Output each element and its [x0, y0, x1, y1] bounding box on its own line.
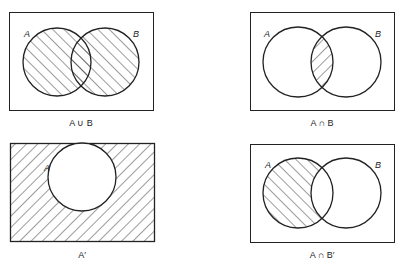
- venn-intersection: A B A ∩ B: [251, 13, 395, 129]
- venn-diagrams-figure: A B A ∪ B A B A ∩ B A A′ A B A ∩ B′: [0, 0, 405, 269]
- caption-intersection: A ∩ B: [311, 118, 334, 128]
- caption-difference: A ∩ B′: [310, 250, 335, 260]
- venn-union: A B A ∪ B: [10, 13, 154, 129]
- set-b-label: B: [375, 29, 381, 39]
- set-a-label: A: [23, 29, 30, 39]
- set-b-label: B: [375, 160, 381, 170]
- caption-union: A ∪ B: [69, 118, 93, 128]
- venn-difference: A B A ∩ B′: [251, 145, 395, 261]
- set-b-label: B: [133, 29, 139, 39]
- caption-complement: A′: [78, 250, 86, 260]
- set-a-label: A: [264, 160, 271, 170]
- venn-complement: A A′: [11, 143, 155, 260]
- set-a-label: A: [43, 163, 50, 173]
- set-a-label: A: [263, 29, 270, 39]
- set-a-circle: [48, 143, 116, 211]
